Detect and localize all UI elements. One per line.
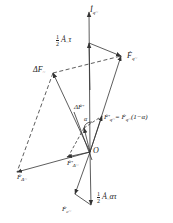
label-f-c: Ḟc~ xyxy=(62,206,71,214)
label-delta-f-sub: ~ xyxy=(43,70,46,75)
label-delta-f-prime: ΔḞ' xyxy=(74,104,84,111)
fraction-half: 12 xyxy=(56,34,59,47)
label-fc-sub: c~ xyxy=(66,209,71,214)
delta-f-dashed xyxy=(53,56,121,73)
label-alpha-tau: ατ xyxy=(110,192,117,201)
frac-den: 2 xyxy=(56,41,59,47)
label-i-q-sub: q~ xyxy=(93,10,98,15)
label-f-q: Ḟq~ xyxy=(127,52,137,61)
label-f-delta-prime: Ḟ'Δ~ xyxy=(67,160,78,168)
delta-f-to-f-delta-dashed xyxy=(17,73,53,172)
label-alpha: α xyxy=(84,116,87,122)
fraction-half-2: 12 xyxy=(97,191,100,204)
vector-diagram xyxy=(0,0,173,223)
label-fqp-suffix: (1−α) xyxy=(131,113,148,121)
label-half-a-tau: 12 Ȧ~τ xyxy=(56,34,71,47)
label-f-q-sub: q~ xyxy=(132,56,137,61)
f-delta-vector xyxy=(17,152,90,172)
a-tau-to-fq xyxy=(89,43,121,56)
label-fdp-sub: Δ~ xyxy=(73,163,79,168)
frac-num-2: 1 xyxy=(97,191,100,198)
label-delta-f-main: ΔF xyxy=(33,65,43,74)
label-tau: τ xyxy=(69,35,72,44)
label-f-q-prime-equation: Ḟ'q~= Ḟq~(1−α) xyxy=(104,114,148,122)
label-fqp-eq: = Ḟ xyxy=(115,113,126,121)
label-half-a-alpha-tau: 12 Ȧ~ατ xyxy=(97,191,117,204)
origin-label-text: O xyxy=(93,146,99,155)
label-delta-f-prime-main: ΔḞ' xyxy=(74,103,84,111)
label-alpha-text: α xyxy=(84,116,87,122)
label-delta-f: ΔF~ xyxy=(33,66,45,75)
label-fd-sub: Δ~ xyxy=(21,177,27,182)
half-a-alpha-tau-vector xyxy=(90,152,91,205)
label-origin: O xyxy=(93,147,99,155)
frac-num: 1 xyxy=(56,34,59,41)
f-c-to-a-alpha-tau xyxy=(75,194,91,205)
label-f-delta: ḞΔ~ xyxy=(17,174,27,182)
f-c-vector xyxy=(75,152,90,194)
frac-den-2: 2 xyxy=(97,198,100,204)
label-i-q: İq~ xyxy=(90,6,98,15)
